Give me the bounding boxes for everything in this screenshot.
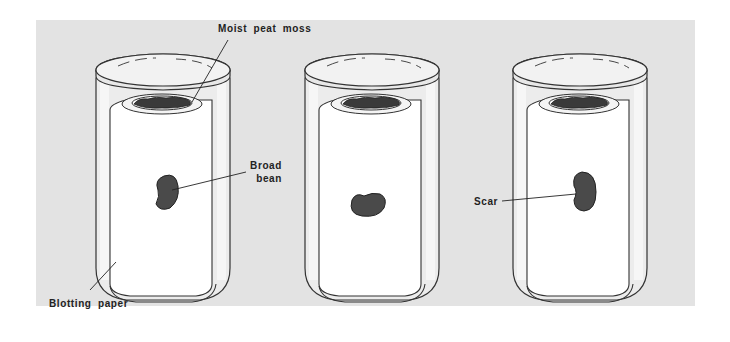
jars-illustration — [0, 0, 730, 342]
label-broad-bean-line2: bean — [246, 173, 282, 185]
label-moist-peat-moss: Moist peat moss — [218, 23, 311, 35]
jar-2 — [305, 54, 439, 302]
label-blotting-paper: Blotting paper — [49, 298, 128, 310]
label-broad-bean-line1: Broad — [246, 160, 282, 172]
label-scar: Scar — [474, 196, 498, 208]
bean-2 — [351, 193, 385, 216]
bean-3 — [574, 172, 596, 211]
